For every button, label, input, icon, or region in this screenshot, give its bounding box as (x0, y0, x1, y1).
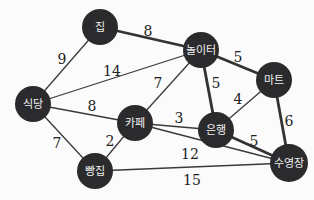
edge-weight-label: 8 (144, 23, 153, 39)
edge-weight-label: 7 (53, 135, 62, 151)
weighted-graph: 891457584631257215 집놀이터마트식당카페은행수영장빵집 (0, 0, 314, 200)
edge-weight-label: 5 (250, 133, 259, 149)
node-label: 식당 (23, 98, 43, 111)
node-pool: 수영장 (270, 144, 308, 182)
edge-bakery-pool (95, 163, 289, 171)
edge-weight-label: 5 (234, 49, 243, 65)
node-label: 카페 (125, 117, 145, 130)
node-label: 놀이터 (186, 44, 216, 57)
edge-weight-label: 14 (103, 63, 121, 79)
edge-weight-label: 9 (58, 51, 67, 67)
node-restaurant: 식당 (15, 86, 51, 122)
node-label: 수영장 (274, 157, 304, 170)
node-label: 빵집 (85, 165, 105, 178)
node-cafe: 카페 (117, 105, 153, 141)
node-home: 집 (82, 9, 118, 45)
edge-weight-label: 7 (154, 75, 163, 91)
node-label: 마트 (264, 74, 284, 87)
edge-weight-label: 12 (181, 146, 199, 162)
node-label: 집 (95, 21, 105, 34)
edge-weight-label: 4 (234, 91, 243, 107)
node-label: 은행 (206, 124, 226, 137)
edge-weight-label: 15 (183, 172, 201, 188)
edges-layer (33, 27, 289, 171)
node-mart: 마트 (256, 62, 292, 98)
nodes-layer: 집놀이터마트식당카페은행수영장빵집 (15, 9, 308, 189)
edge-weight-label: 5 (212, 75, 221, 91)
edge-weight-label: 3 (175, 110, 184, 126)
node-bakery: 빵집 (77, 153, 113, 189)
edge-weight-label: 2 (106, 133, 115, 149)
edge-weight-label: 8 (88, 98, 97, 114)
edge-weight-label: 6 (285, 113, 294, 129)
node-playground: 놀이터 (183, 32, 219, 68)
node-bank: 은행 (198, 112, 234, 148)
